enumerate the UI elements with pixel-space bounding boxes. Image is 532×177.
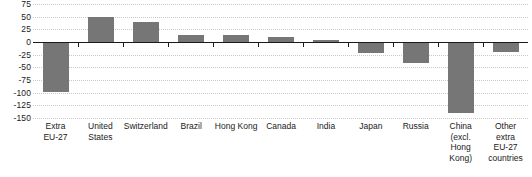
bar-slot xyxy=(348,4,393,118)
x-category-label: Switzerland xyxy=(123,121,169,163)
y-axis-tick-labels: 7550250-25-50-75-100-125-150 xyxy=(0,4,31,118)
x-category-label-line: Hong Kong xyxy=(215,121,258,132)
x-category-label: UnitedStates xyxy=(78,121,123,163)
bar xyxy=(403,42,429,63)
y-tick-label: -25 xyxy=(18,50,31,59)
bar xyxy=(358,42,384,53)
bar xyxy=(133,22,159,42)
x-axis-category-labels: ExtraEU-27UnitedStatesSwitzerlandBrazilH… xyxy=(33,121,528,163)
x-category-label-line: Extra xyxy=(34,121,77,132)
x-category-label-line: extra xyxy=(484,132,527,143)
x-category-label: Brazil xyxy=(169,121,214,163)
x-category-label-line: Other xyxy=(484,121,527,132)
bar xyxy=(88,17,114,42)
x-category-label: ExtraEU-27 xyxy=(33,121,78,163)
x-category-label-line: Japan xyxy=(349,121,392,132)
x-category-label-line: Brazil xyxy=(170,121,213,132)
x-category-label-line: Hong xyxy=(439,142,482,153)
x-category-label: Canada xyxy=(259,121,304,163)
bar-slot xyxy=(303,4,348,118)
y-tick-label: 25 xyxy=(21,25,31,34)
x-category-label: Japan xyxy=(348,121,393,163)
x-category-label: Russia xyxy=(393,121,438,163)
bar xyxy=(448,42,474,113)
bar-slot xyxy=(78,4,123,118)
plot-area xyxy=(33,4,528,118)
x-category-label-line: Canada xyxy=(260,121,303,132)
gridline xyxy=(33,118,528,119)
x-category-label-line: countries xyxy=(484,153,527,164)
y-tick-label: 50 xyxy=(21,12,31,21)
bar-slot xyxy=(168,4,213,118)
x-category-label-line: (excl. xyxy=(439,132,482,143)
x-category-label-line: Russia xyxy=(394,121,437,132)
x-category-label-line: EU-27 xyxy=(484,142,527,153)
bar-slot xyxy=(258,4,303,118)
bar xyxy=(223,35,249,42)
y-tick-label: -75 xyxy=(18,76,31,85)
y-tick-label: -50 xyxy=(18,63,31,72)
x-category-label-line: States xyxy=(79,132,122,143)
x-category-label-line: United xyxy=(79,121,122,132)
x-category-label: India xyxy=(303,121,348,163)
y-tick-label: 0 xyxy=(26,38,31,47)
y-tick-label: -150 xyxy=(14,114,31,123)
x-category-label: China(excl.HongKong) xyxy=(438,121,483,163)
x-category-label-line: Kong) xyxy=(439,153,482,164)
bar xyxy=(43,42,69,92)
bar-chart: 7550250-25-50-75-100-125-150 ExtraEU-27U… xyxy=(0,0,532,177)
x-category-label: OtherextraEU-27countries xyxy=(483,121,528,163)
bar-slot xyxy=(123,4,168,118)
x-category-label: Hong Kong xyxy=(214,121,259,163)
bar-slot xyxy=(213,4,258,118)
bar-slot xyxy=(483,4,528,118)
bar-slot xyxy=(438,4,483,118)
bar-series xyxy=(33,4,528,118)
y-tick-label: -100 xyxy=(14,88,31,97)
y-tick-label: -125 xyxy=(14,101,31,110)
x-category-label-line: India xyxy=(304,121,347,132)
bar-slot xyxy=(33,4,78,118)
y-tick-label: 75 xyxy=(21,0,31,8)
x-category-label-line: Switzerland xyxy=(124,121,168,132)
bar xyxy=(493,42,519,52)
zero-axis-line xyxy=(33,42,528,43)
bar xyxy=(178,35,204,42)
x-category-label-line: China xyxy=(439,121,482,132)
bar-slot xyxy=(393,4,438,118)
x-category-label-line: EU-27 xyxy=(34,132,77,143)
